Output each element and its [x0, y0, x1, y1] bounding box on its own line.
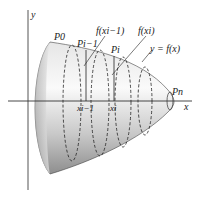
f-xi-minus-1-label: f(xi−1) — [96, 25, 125, 37]
tick-xi-label: xi — [109, 103, 117, 113]
point-pi-label: Pi — [110, 44, 120, 55]
x-axis-label: x — [183, 101, 189, 112]
surface-of-revolution-diagram: y x P0 Pi−1 Pi Pn f(xi−1) f(xi) y = f(x)… — [0, 0, 200, 197]
point-pi-minus-1-label: Pi−1 — [76, 38, 98, 49]
y-axis-label: y — [30, 9, 36, 20]
point-p0-label: P0 — [53, 31, 65, 42]
f-xi-label: f(xi) — [138, 25, 155, 37]
tick-xi-minus-1-label: xi−1 — [76, 103, 94, 113]
point-pn-label: Pn — [171, 86, 183, 97]
surface-body — [35, 42, 174, 174]
curve-label: y = f(x) — [149, 43, 181, 55]
